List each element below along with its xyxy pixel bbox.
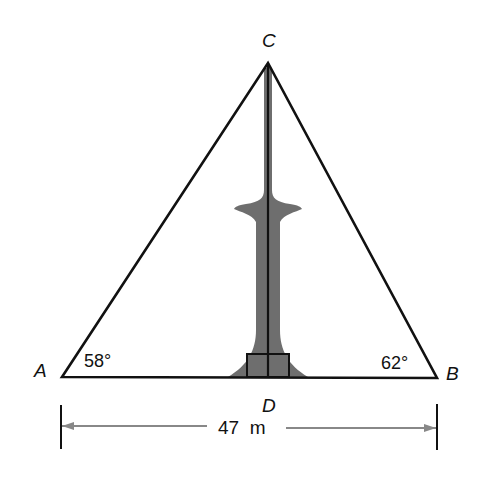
triangle-abc (62, 63, 437, 378)
arrow-left-icon (62, 422, 74, 430)
point-label-b: B (446, 363, 459, 384)
diagram-canvas: C A B D 58° 62° 47 m (0, 0, 483, 492)
dimension-label: 47 m (218, 417, 266, 438)
angle-label-b: 62° (381, 353, 408, 373)
triangle-diagram: C A B D 58° 62° 47 m (0, 0, 483, 492)
arrow-right-icon (424, 424, 436, 432)
point-label-c: C (262, 30, 276, 51)
point-label-d: D (262, 395, 276, 416)
point-label-a: A (33, 360, 47, 381)
angle-label-a: 58° (84, 351, 111, 371)
